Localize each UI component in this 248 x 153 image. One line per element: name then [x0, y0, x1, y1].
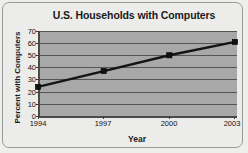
chart-figure: U.S. Households with Computers Percent w…: [0, 0, 248, 153]
data-point-marker: [35, 84, 40, 89]
data-point-marker: [167, 53, 172, 58]
data-point-marker: [232, 39, 237, 44]
series-line: [38, 42, 235, 87]
x-axis-ticks: 1994 1997 2000 2003: [0, 119, 248, 131]
x-tick-label: 2000: [152, 119, 186, 128]
y-tick-label: 60: [20, 40, 36, 47]
data-series-layer: [38, 31, 235, 116]
x-tick-label: 1994: [21, 119, 55, 128]
y-tick-label: 40: [20, 64, 36, 71]
x-tick-label: 2003: [215, 119, 248, 128]
x-tick-label: 1997: [86, 119, 120, 128]
y-tick-label: 30: [20, 76, 36, 83]
y-tick-label: 50: [20, 52, 36, 59]
y-tick-label: 20: [20, 89, 36, 96]
chart-title: U.S. Households with Computers: [28, 9, 240, 21]
y-tick-label: 70: [20, 28, 36, 35]
data-point-marker: [101, 68, 106, 73]
y-tick-label: 10: [20, 101, 36, 108]
x-axis-title: Year: [36, 134, 238, 144]
y-axis-ticks: 70 60 50 40 30 20 10 0: [18, 31, 36, 116]
